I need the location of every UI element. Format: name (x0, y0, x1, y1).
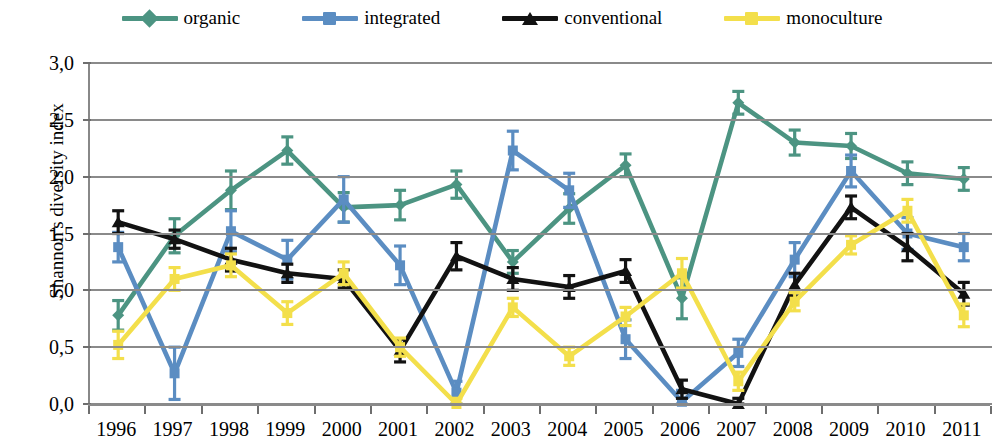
square-marker-icon (170, 368, 180, 378)
x-tick-mark (370, 406, 372, 414)
legend-item-integrated: integrated (302, 7, 440, 29)
x-tick-label-2008: 2008 (773, 418, 813, 439)
legend-item-monoculture: monoculture (724, 7, 882, 29)
legend-item-organic: organic (122, 7, 241, 29)
gridline (90, 233, 992, 235)
x-tick-mark (990, 406, 992, 414)
y-tick-label: 0,0 (49, 393, 74, 416)
x-tick-mark (934, 406, 936, 414)
x-tick-label-2011: 2011 (942, 418, 981, 439)
x-tick-mark (595, 406, 597, 414)
x-tick-label-2010: 2010 (885, 418, 925, 439)
y-tick-label: 2,5 (49, 108, 74, 131)
x-tick-mark (144, 406, 146, 414)
x-tick-label-1997: 1997 (153, 418, 193, 439)
x-tick-label-2004: 2004 (547, 418, 587, 439)
square-marker-icon (226, 260, 236, 270)
legend-label: integrated (364, 7, 440, 29)
square-marker-icon (790, 297, 800, 307)
series-integrated (112, 131, 970, 407)
gridline (90, 176, 992, 178)
triangle-marker-icon (502, 10, 558, 26)
x-tick-label-2002: 2002 (434, 418, 474, 439)
chart-legend: organicintegratedconventionalmonoculture (0, 0, 1004, 36)
square-marker-icon (564, 185, 574, 195)
square-marker-icon (170, 274, 180, 284)
x-tick-label-1996: 1996 (96, 418, 136, 439)
x-tick-label-2000: 2000 (322, 418, 362, 439)
y-tick-label: 1,0 (49, 279, 74, 302)
diamond-marker-icon (122, 10, 178, 26)
x-tick-mark (201, 406, 203, 414)
legend-label: monoculture (786, 7, 882, 29)
x-tick-mark (426, 406, 428, 414)
gridline (90, 62, 992, 64)
x-tick-mark (88, 406, 90, 414)
y-tick-mark (83, 119, 91, 121)
x-tick-label-2007: 2007 (716, 418, 756, 439)
square-marker-icon (846, 166, 856, 176)
x-tick-mark (257, 406, 259, 414)
x-tick-mark (877, 406, 879, 414)
square-marker-icon (959, 310, 969, 320)
y-tick-label: 3,0 (49, 52, 74, 75)
y-tick-label: 1,5 (49, 222, 74, 245)
square-marker-icon (902, 206, 912, 216)
y-tick-mark (83, 62, 91, 64)
gridline (90, 289, 992, 291)
square-marker-icon (564, 351, 574, 361)
square-marker-icon (677, 268, 687, 278)
legend-label: conventional (564, 7, 662, 29)
square-marker-icon (733, 348, 743, 358)
triangle-marker-icon (845, 201, 858, 212)
square-marker-icon (733, 376, 743, 386)
x-tick-label-2005: 2005 (604, 418, 644, 439)
y-tick-label: 0,5 (49, 336, 74, 359)
square-marker-icon (621, 311, 631, 321)
y-axis-tick-labels: 3,02,52,01,51,00,50,0 (24, 36, 82, 439)
plot-area (88, 63, 990, 404)
y-tick-mark (83, 233, 91, 235)
x-tick-label-2009: 2009 (829, 418, 869, 439)
x-tick-mark (539, 406, 541, 414)
x-tick-mark (652, 406, 654, 414)
square-marker-icon (226, 226, 236, 236)
series-organic (112, 91, 970, 330)
square-marker-icon (621, 334, 631, 344)
square-marker-icon (790, 255, 800, 265)
square-marker-icon (724, 10, 780, 26)
square-marker-icon (282, 308, 292, 318)
x-tick-mark (708, 406, 710, 414)
plot-wrapper: 3,02,52,01,51,00,50,0 199619971998199920… (0, 36, 1004, 439)
y-tick-mark (83, 346, 91, 348)
square-marker-icon (508, 146, 518, 156)
y-tick-mark (83, 289, 91, 291)
x-tick-label-1999: 1999 (265, 418, 305, 439)
legend-label: organic (184, 7, 241, 29)
y-tick-label: 2,0 (49, 165, 74, 188)
x-tick-label-2003: 2003 (491, 418, 531, 439)
diamond-marker-icon (394, 199, 406, 211)
square-marker-icon (339, 194, 349, 204)
gridline (90, 346, 992, 348)
x-axis-tick-labels: 1996199719981999200020012002200320042005… (88, 418, 990, 439)
legend-item-conventional: conventional (502, 7, 662, 29)
square-marker-icon (339, 268, 349, 278)
x-tick-label-2006: 2006 (660, 418, 700, 439)
x-tick-mark (821, 406, 823, 414)
chart-figure: organicintegratedconventionalmonoculture… (0, 0, 1004, 439)
square-marker-icon (959, 242, 969, 252)
square-marker-icon (846, 240, 856, 250)
square-marker-icon (113, 242, 123, 252)
x-tick-mark (483, 406, 485, 414)
x-tick-mark (765, 406, 767, 414)
square-marker-icon (508, 302, 518, 312)
square-marker-icon (302, 10, 358, 26)
series-monoculture (112, 199, 970, 409)
square-marker-icon (113, 340, 123, 350)
square-marker-icon (395, 260, 405, 270)
x-tick-mark (314, 406, 316, 414)
x-tick-label-2001: 2001 (378, 418, 418, 439)
gridline (90, 119, 992, 121)
x-tick-label-1998: 1998 (209, 418, 249, 439)
